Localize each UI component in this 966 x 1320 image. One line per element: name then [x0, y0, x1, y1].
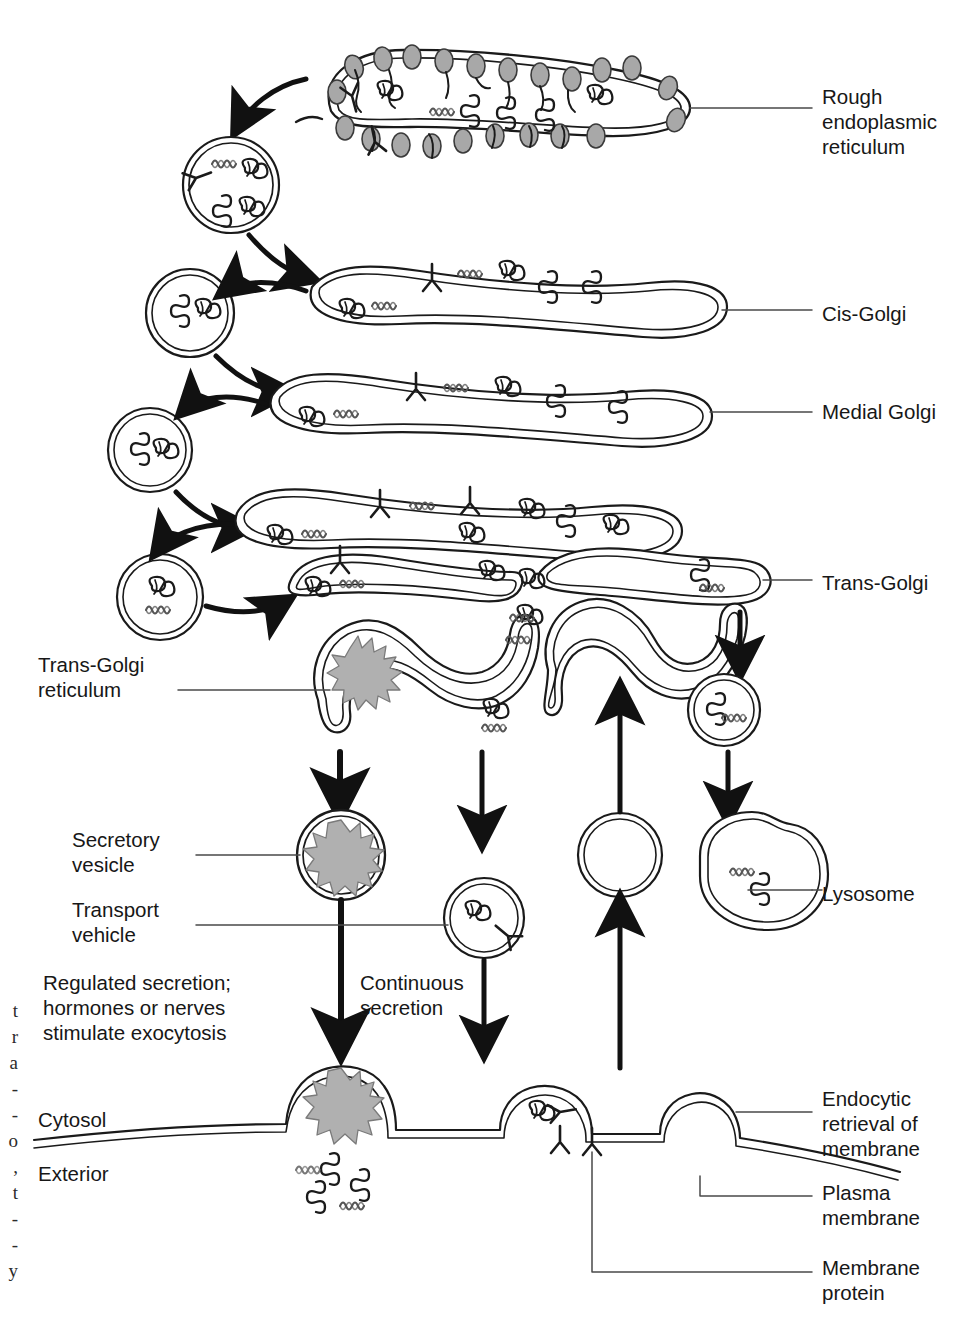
arrow-medial-recycle [182, 397, 266, 412]
label-exterior: Exterior [38, 1161, 109, 1186]
vesicle-secretory [297, 810, 385, 900]
figure-canvas: Rough endoplasmic reticulum Cis-Golgi Me… [0, 0, 966, 1320]
organelle-lysosome [700, 812, 828, 930]
leader-membrane-protein [592, 1152, 812, 1272]
leader-plasma-membrane [700, 1176, 812, 1196]
label-continuous-secretion: Continuous secretion [360, 970, 464, 1020]
label-membrane-protein: Membrane protein [822, 1255, 920, 1305]
label-trans-golgi-reticulum: Trans-Golgi reticulum [38, 652, 144, 702]
label-cytosol: Cytosol [38, 1107, 106, 1132]
organelle-plasma-membrane [34, 1067, 900, 1213]
arrow-trans-recycle [156, 524, 232, 552]
vesicle-transport [444, 878, 524, 958]
organelle-trans-golgi-reticulum [314, 599, 747, 732]
label-rough-endoplasmic-reticulum: Rough endoplasmic reticulum [822, 84, 937, 159]
label-secretory-vesicle: Secretory vesicle [72, 827, 160, 877]
organelle-cis-golgi [311, 261, 727, 338]
vesicle-medial-recycle [108, 408, 192, 492]
vesicle-cis-recycle [146, 269, 234, 357]
page-edge-fragments: t r a - - o , t - - y [2, 998, 18, 1284]
arrow-vesicle-to-trans [206, 600, 288, 612]
label-plasma-membrane: Plasma membrane [822, 1180, 920, 1230]
vesicle-er-to-cis [183, 137, 279, 233]
label-cis-golgi: Cis-Golgi [822, 301, 906, 326]
arrow-cis-to-medial [216, 356, 288, 392]
arrow-cis-recycle [222, 283, 306, 293]
label-regulated-secretion: Regulated secretion; hormones or nerves … [43, 970, 231, 1045]
vesicle-lysosome-carrier [688, 674, 760, 746]
organelle-rough-er [296, 45, 690, 158]
vesicle-endocytic [578, 813, 662, 897]
label-endocytic-retrieval-of-membrane: Endocytic retrieval of membrane [822, 1086, 920, 1161]
label-trans-golgi: Trans-Golgi [822, 570, 928, 595]
condensed-granule-exocytosis [303, 1068, 384, 1144]
label-medial-golgi: Medial Golgi [822, 399, 936, 424]
vesicle-trans-recycle [117, 554, 203, 640]
label-lysosome: Lysosome [822, 881, 915, 906]
released-proteins [296, 1153, 369, 1213]
organelle-medial-golgi [271, 373, 712, 447]
label-transport-vehicle: Transport vehicle [72, 897, 159, 947]
arrow-vesicle-to-cis [249, 235, 312, 279]
